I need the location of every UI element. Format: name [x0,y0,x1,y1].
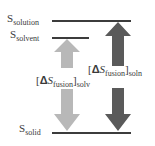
dark-up-arrow-icon [105,22,131,66]
light-up-arrow-icon [54,39,80,68]
delta-s-fusion-soln-label: [ΔSfusion]soln [88,64,142,78]
delta-s-fusion-solv-label: [ΔSfusion]solv [36,75,90,89]
fusion-subscript: fusion [105,69,125,78]
soln-subscript: soln [129,69,142,78]
delta-symbol: Δ [40,74,48,86]
light-down-arrow-icon [54,89,80,131]
dark-down-arrow-icon [105,88,131,131]
solv-subscript: solv [77,80,90,89]
delta-symbol: Δ [92,63,100,75]
fusion-subscript: fusion [53,80,73,89]
